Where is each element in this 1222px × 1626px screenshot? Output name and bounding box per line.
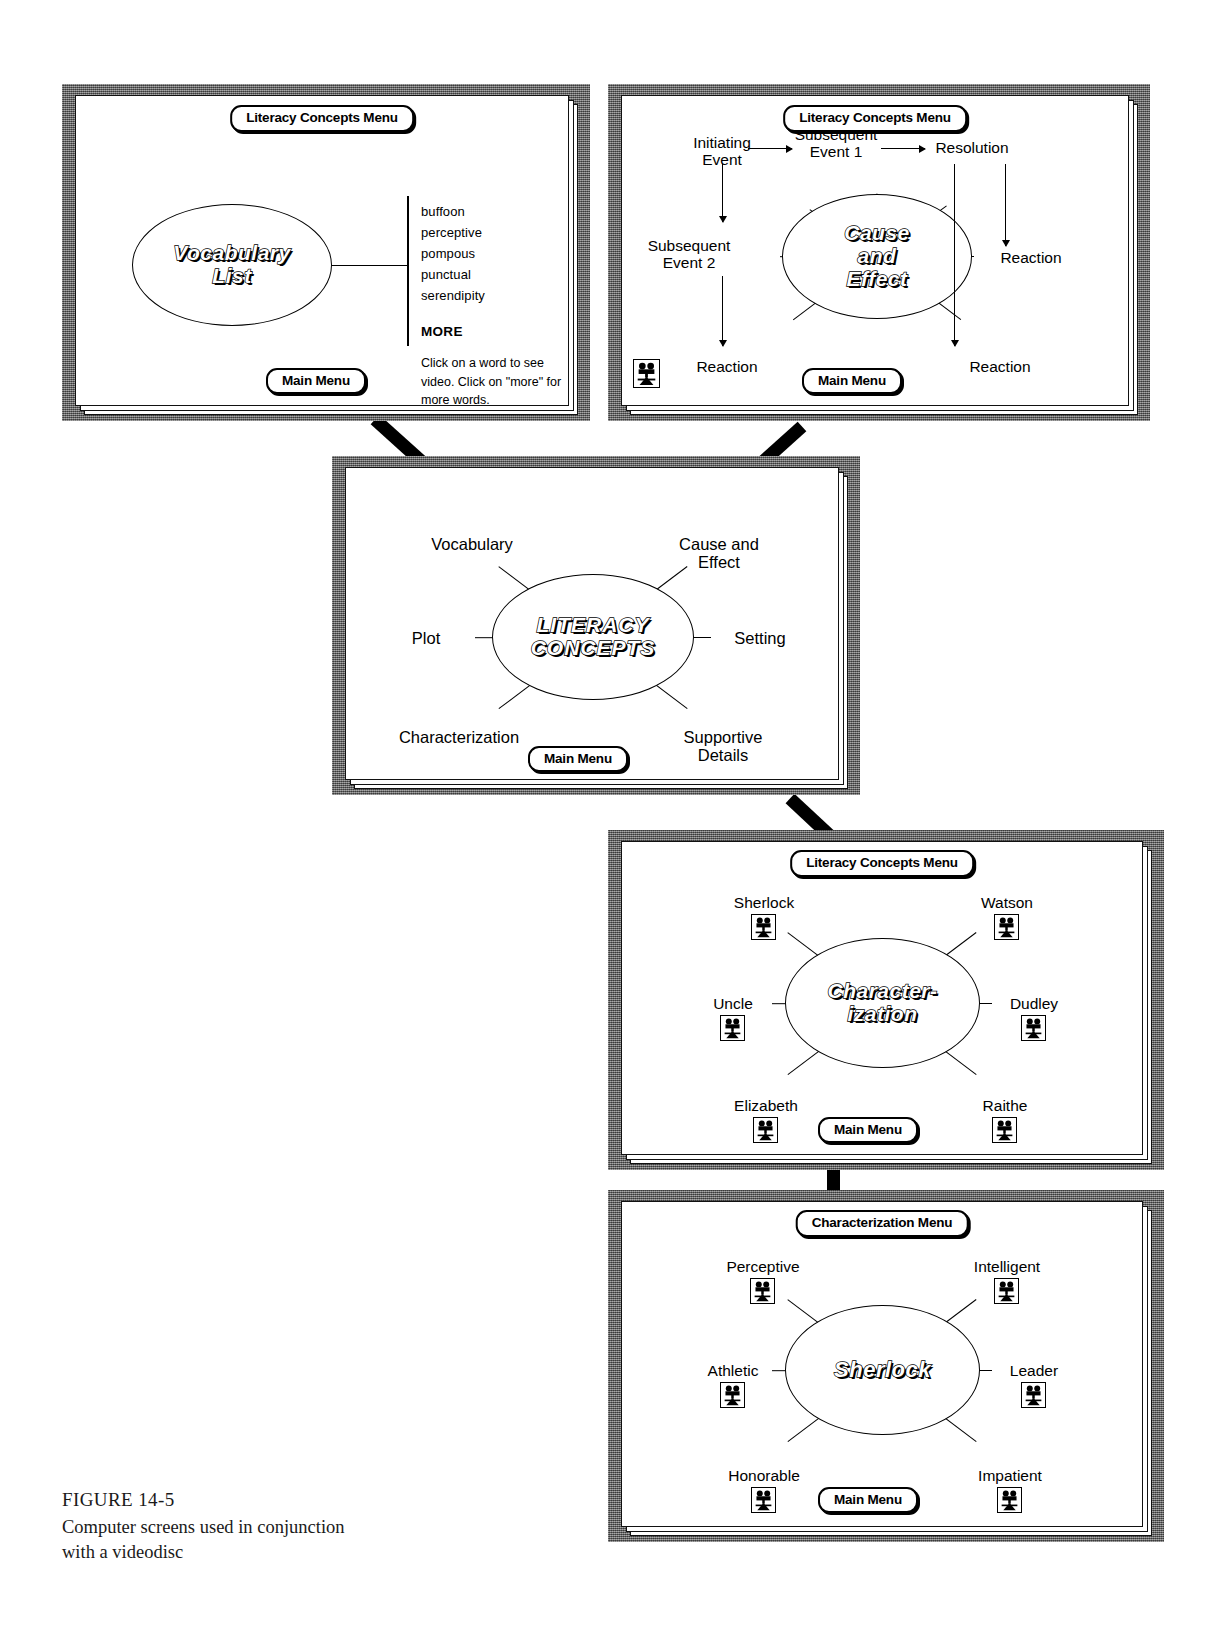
movie-camera-icon[interactable] (720, 1382, 745, 1408)
screen-canvas-characterization: Literacy Concepts Menu Character- izatio… (621, 841, 1143, 1155)
wordlist-divider (407, 196, 409, 346)
screen-canvas-sherlock: Characterization Menu Sherlock Perceptiv… (621, 1201, 1143, 1527)
screen-vocabulary-list: Literacy Concepts Menu Vocabulary List b… (62, 84, 590, 421)
movie-camera-icon[interactable] (994, 1278, 1019, 1304)
node-watson[interactable]: Watson (981, 894, 1033, 911)
node-sherlock[interactable]: Sherlock (734, 894, 794, 911)
screen-cause-and-effect: Literacy Concepts Menu Cause and Effect … (608, 84, 1150, 421)
titlebar-characterization-menu[interactable]: Characterization Menu (796, 1210, 969, 1237)
hub-literacy-concepts[interactable]: LITERACY CONCEPTS (492, 574, 694, 700)
screen-canvas-cause-and-effect: Literacy Concepts Menu Cause and Effect … (621, 95, 1129, 406)
movie-camera-icon[interactable] (633, 359, 660, 388)
main-menu-button[interactable]: Main Menu (802, 368, 902, 395)
hub-characterization[interactable]: Character- ization (785, 938, 980, 1068)
node-reaction-right[interactable]: Reaction (1000, 249, 1061, 266)
movie-camera-icon[interactable] (750, 1278, 775, 1304)
node-reaction-bottom-left[interactable]: Reaction (696, 358, 757, 375)
node-initiating-event[interactable]: Initiating Event (693, 134, 751, 169)
arrow-initiating-to-subsequent2 (722, 164, 723, 222)
node-dudley[interactable]: Dudley (1010, 995, 1058, 1012)
movie-camera-icon[interactable] (1021, 1015, 1046, 1041)
screen-literacy-concepts: LITERACY CONCEPTS Vocabulary Cause and E… (332, 456, 860, 795)
word-item[interactable]: buffoon (421, 201, 485, 222)
node-reaction-bottom-right[interactable]: Reaction (969, 358, 1030, 375)
node-athletic[interactable]: Athletic (708, 1362, 759, 1379)
node-uncle[interactable]: Uncle (713, 995, 753, 1012)
arrow-resolution-to-reaction-bottom (954, 164, 955, 346)
word-item[interactable]: serendipity (421, 285, 485, 306)
main-menu-button[interactable]: Main Menu (528, 746, 628, 773)
node-raithe[interactable]: Raithe (983, 1097, 1028, 1114)
word-item[interactable]: pompous (421, 243, 485, 264)
node-honorable[interactable]: Honorable (728, 1467, 800, 1484)
node-supportive-details[interactable]: Supportive Details (666, 728, 781, 765)
movie-camera-icon[interactable] (753, 1117, 778, 1143)
movie-camera-icon[interactable] (720, 1015, 745, 1041)
node-subsequent-event-2[interactable]: Subsequent Event 2 (648, 237, 731, 272)
node-vocabulary[interactable]: Vocabulary (431, 535, 513, 553)
arrow-subsequent2-to-reaction (722, 276, 723, 346)
movie-camera-icon[interactable] (751, 1487, 776, 1513)
node-perceptive[interactable]: Perceptive (726, 1258, 799, 1275)
main-menu-button[interactable]: Main Menu (266, 368, 366, 395)
arrow-initiating-to-subsequent1 (748, 148, 792, 149)
node-plot[interactable]: Plot (412, 629, 440, 647)
hub-vocabulary-list[interactable]: Vocabulary List (132, 204, 332, 326)
titlebar-literacy-concepts-menu[interactable]: Literacy Concepts Menu (230, 105, 414, 132)
screen-canvas-literacy-concepts: LITERACY CONCEPTS Vocabulary Cause and E… (345, 467, 839, 780)
hub-label: Cause and Effect (844, 222, 910, 290)
main-menu-button[interactable]: Main Menu (818, 1487, 918, 1514)
node-impatient[interactable]: Impatient (978, 1467, 1042, 1484)
figure-root: Literacy Concepts Menu Vocabulary List b… (0, 0, 1222, 1626)
main-menu-button[interactable]: Main Menu (818, 1117, 918, 1144)
node-leader[interactable]: Leader (1010, 1362, 1058, 1379)
word-item[interactable]: perceptive (421, 222, 485, 243)
figure-number: FIGURE 14-5 (62, 1489, 492, 1511)
vocabulary-word-list: buffoon perceptive pompous punctual sere… (421, 201, 485, 343)
movie-camera-icon[interactable] (751, 914, 776, 940)
movie-camera-icon[interactable] (992, 1117, 1017, 1143)
screen-canvas-vocabulary: Literacy Concepts Menu Vocabulary List b… (75, 95, 569, 406)
screen-characterization: Literacy Concepts Menu Character- izatio… (608, 830, 1164, 1170)
arrow-subsequent1-to-resolution (881, 148, 925, 149)
hub-label: LITERACY CONCEPTS (531, 614, 656, 659)
arrow-resolution-to-reaction (1005, 164, 1006, 246)
hub-label: Sherlock (834, 1358, 931, 1382)
node-characterization[interactable]: Characterization (399, 728, 519, 746)
help-text: Click on a word to see video. Click on "… (421, 354, 569, 406)
figure-caption-text: Computer screens used in conjunction wit… (62, 1515, 492, 1565)
node-cause-and-effect[interactable]: Cause and Effect (660, 535, 779, 572)
spoke-hub-to-wordlist (332, 265, 408, 266)
hub-label: Vocabulary List (173, 242, 290, 287)
hub-sherlock[interactable]: Sherlock (785, 1305, 980, 1435)
screen-sherlock: Characterization Menu Sherlock Perceptiv… (608, 1190, 1164, 1542)
node-resolution[interactable]: Resolution (935, 139, 1008, 156)
node-intelligent[interactable]: Intelligent (974, 1258, 1040, 1275)
more-button[interactable]: MORE (421, 321, 485, 343)
titlebar-literacy-concepts-menu[interactable]: Literacy Concepts Menu (783, 105, 967, 132)
movie-camera-icon[interactable] (994, 914, 1019, 940)
titlebar-literacy-concepts-menu[interactable]: Literacy Concepts Menu (790, 850, 974, 877)
node-setting[interactable]: Setting (734, 629, 785, 647)
figure-caption: FIGURE 14-5 Computer screens used in con… (62, 1489, 492, 1565)
hub-label: Character- ization (827, 980, 937, 1025)
hub-cause-and-effect[interactable]: Cause and Effect (782, 194, 972, 319)
node-elizabeth[interactable]: Elizabeth (734, 1097, 798, 1114)
word-item[interactable]: punctual (421, 264, 485, 285)
movie-camera-icon[interactable] (1021, 1382, 1046, 1408)
movie-camera-icon[interactable] (997, 1487, 1022, 1513)
